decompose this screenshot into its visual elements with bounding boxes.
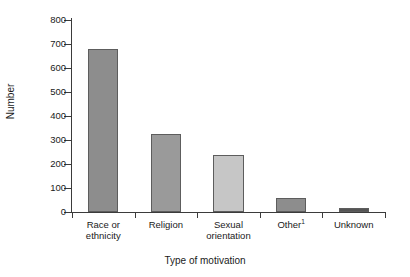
- y-tick-label: 500: [50, 87, 66, 97]
- y-tick-label: 0: [61, 207, 66, 217]
- bar: [339, 208, 369, 212]
- y-tick-label: 800: [50, 15, 66, 25]
- x-category-label-line: Race or: [72, 219, 135, 230]
- bar: [151, 134, 181, 212]
- x-category-label: Unknown: [322, 219, 385, 230]
- x-tick: [322, 212, 323, 218]
- y-axis-title: Number: [5, 84, 16, 120]
- x-tick: [260, 212, 261, 218]
- bar: [213, 155, 243, 212]
- x-axis-line: [71, 212, 385, 213]
- x-category-label-line: ethnicity: [72, 230, 135, 241]
- x-tick: [135, 212, 136, 218]
- bar-chart: 0100200300400500600700800 Race orethnici…: [0, 0, 410, 277]
- x-category-label: Religion: [135, 219, 198, 230]
- x-category-label-line: Other1: [260, 219, 323, 230]
- x-category-label-line: orientation: [197, 230, 260, 241]
- y-tick-label: 400: [50, 111, 66, 121]
- bar: [276, 198, 306, 212]
- y-tick-label: 700: [50, 39, 66, 49]
- x-category-label: Race orethnicity: [72, 219, 135, 241]
- bar: [88, 49, 118, 212]
- x-category-label: Sexualorientation: [197, 219, 260, 241]
- x-category-label-line: Unknown: [322, 219, 385, 230]
- x-category-label-line: Religion: [135, 219, 198, 230]
- x-tick: [197, 212, 198, 218]
- y-tick-label: 300: [50, 135, 66, 145]
- x-tick: [72, 212, 73, 218]
- y-tick-label: 200: [50, 159, 66, 169]
- bars-container: [72, 20, 385, 212]
- x-tick: [385, 212, 386, 218]
- y-tick-label: 600: [50, 63, 66, 73]
- x-category-label-line: Sexual: [197, 219, 260, 230]
- x-axis-title: Type of motivation: [0, 255, 410, 266]
- x-category-label: Other1: [260, 219, 323, 230]
- y-tick-label: 100: [50, 183, 66, 193]
